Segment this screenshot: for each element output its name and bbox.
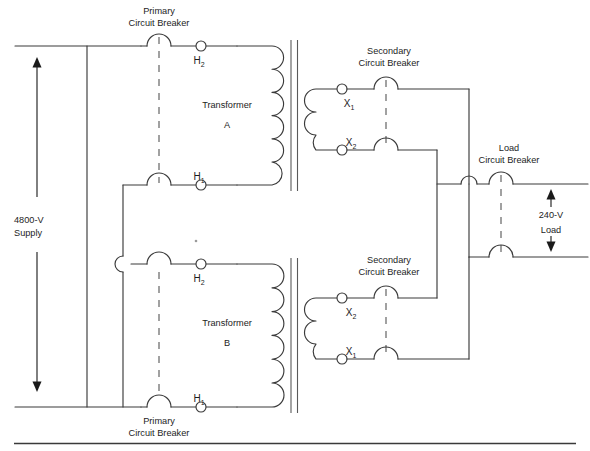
primary-circuit-breaker-top[interactable] [147, 34, 171, 183]
schematic-canvas: 4800-V Supply Primary Circuit Breaker H2… [0, 0, 590, 451]
coil-a-secondary [305, 89, 338, 150]
terminal-b-h2-label: H2 [193, 273, 204, 286]
transformer-a-label-line2: A [224, 120, 231, 130]
secondary-cb-top-label-line2: Circuit Breaker [359, 58, 420, 68]
transformer-parallel-schematic: 4800-V Supply Primary Circuit Breaker H2… [0, 0, 590, 451]
terminal-a-x2-label: X2 [346, 137, 357, 150]
secondary-circuit-breaker-bottom[interactable] [374, 286, 398, 357]
terminal-b-x1-label: X1 [346, 346, 357, 359]
terminal-b-x2[interactable] [337, 293, 347, 303]
terminal-a-x1[interactable] [337, 84, 347, 94]
transformer-a-label-line1: Transformer [202, 100, 252, 110]
secondary-cb-bottom-label-line2: Circuit Breaker [359, 267, 420, 277]
primary-cb-bottom-label-line2: Circuit Breaker [129, 428, 190, 438]
coil-b-secondary [305, 298, 338, 359]
wire-hop-b-h2 [115, 256, 123, 272]
secondary-circuit-breaker-top[interactable] [374, 77, 398, 148]
primary-circuit-breaker-bottom-upper-contact[interactable] [147, 252, 171, 264]
load-label-line1: 240-V [539, 210, 564, 220]
load-cb-label-line1: Load [499, 143, 519, 153]
supply-label-line2: Supply [14, 228, 42, 238]
primary-cb-top-label-line1: Primary [143, 6, 175, 16]
coil-b-primary [237, 264, 284, 407]
secondary-cb-top-label-line1: Secondary [367, 46, 411, 56]
primary-cb-bottom-label-line1: Primary [143, 416, 175, 426]
primary-cb-top-label-line2: Circuit Breaker [129, 18, 190, 28]
load-circuit-breaker[interactable] [489, 172, 513, 257]
coil-a-primary [237, 46, 284, 185]
terminal-a-x1-label: X1 [344, 98, 355, 111]
load-voltage-arrow [547, 189, 556, 252]
supply-label-line1: 4800-V [14, 215, 44, 225]
secondary-cb-bottom-label-line1: Secondary [367, 255, 411, 265]
transformer-b-label-line2: B [224, 338, 230, 348]
load-cb-label-line2: Circuit Breaker [479, 155, 540, 165]
terminal-b-x2-label: X2 [346, 307, 357, 320]
polarity-dot-mark [195, 240, 198, 243]
terminal-a-h2-label: H2 [193, 55, 204, 68]
primary-circuit-breaker-bottom[interactable] [147, 272, 171, 407]
terminal-b-h2[interactable] [196, 259, 206, 269]
terminal-a-h2[interactable] [196, 41, 206, 51]
transformer-b-label-line1: Transformer [202, 318, 252, 328]
load-label-line2: Load [541, 225, 561, 235]
